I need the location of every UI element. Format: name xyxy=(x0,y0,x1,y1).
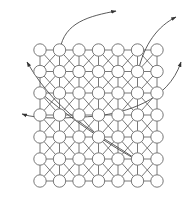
grid-node xyxy=(112,153,124,165)
grid-node xyxy=(73,65,85,77)
grid-node xyxy=(73,44,85,56)
grid-node xyxy=(53,65,65,77)
grid-node xyxy=(53,87,65,99)
grid-node xyxy=(34,153,46,165)
grid-node xyxy=(112,65,124,77)
grid-node xyxy=(131,131,143,143)
grid-node xyxy=(151,87,163,99)
grid-node xyxy=(53,175,65,187)
grid-node xyxy=(151,175,163,187)
grid-node xyxy=(73,87,85,99)
grid-node xyxy=(73,109,85,121)
grid-node xyxy=(151,109,163,121)
grid-node xyxy=(92,131,104,143)
grid-node xyxy=(112,175,124,187)
grid-node xyxy=(131,175,143,187)
grid-node xyxy=(92,175,104,187)
grid-node xyxy=(151,153,163,165)
grid-node xyxy=(151,131,163,143)
grid-node xyxy=(34,65,46,77)
grid-node xyxy=(112,87,124,99)
grid-node xyxy=(34,87,46,99)
grid-node xyxy=(73,153,85,165)
grid-node xyxy=(131,109,143,121)
grid-node xyxy=(53,44,65,56)
grid-node xyxy=(34,175,46,187)
grid-node xyxy=(131,44,143,56)
grid-node xyxy=(131,65,143,77)
grid-node xyxy=(34,44,46,56)
grid-node xyxy=(151,65,163,77)
grid-node xyxy=(92,153,104,165)
grid-node xyxy=(92,87,104,99)
grid-node xyxy=(73,131,85,143)
grid-node xyxy=(34,109,46,121)
grid-node xyxy=(92,109,104,121)
grid-node xyxy=(112,109,124,121)
grid-node xyxy=(112,44,124,56)
grid-node xyxy=(53,153,65,165)
grid-node xyxy=(53,131,65,143)
grid-node xyxy=(92,65,104,77)
grid-node xyxy=(131,153,143,165)
grid-node xyxy=(34,131,46,143)
grid-node xyxy=(73,175,85,187)
grid-node xyxy=(53,109,65,121)
grid-node xyxy=(131,87,143,99)
lattice-diagram xyxy=(0,0,192,200)
grid-node xyxy=(151,44,163,56)
trajectory-top-left-arrow xyxy=(60,11,116,50)
grid-node xyxy=(92,44,104,56)
grid-node xyxy=(112,131,124,143)
